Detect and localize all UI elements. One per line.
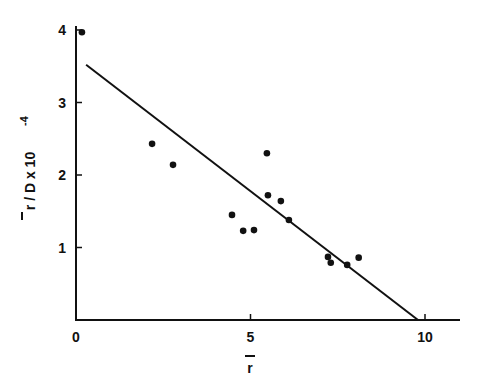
data-points — [79, 29, 362, 268]
y-axis-title-text: r / D x 10 — [22, 152, 38, 211]
fit-line — [86, 65, 418, 320]
x-tick-label: 0 — [72, 329, 80, 345]
x-axis-title-text: r — [247, 360, 253, 376]
data-point — [265, 192, 272, 199]
data-point — [355, 254, 362, 261]
y-tick-label: 3 — [58, 95, 66, 111]
data-point — [286, 217, 293, 224]
data-point — [327, 259, 334, 266]
data-point — [325, 254, 332, 261]
data-point — [79, 29, 86, 36]
x-axis-title: r — [245, 356, 255, 376]
y-tick-label: 4 — [58, 22, 66, 38]
chart-svg: 05101234 r r / D x 10 -4 — [0, 0, 482, 392]
ticks — [76, 30, 425, 320]
tick-labels: 05101234 — [58, 22, 433, 345]
y-tick-label: 2 — [58, 167, 66, 183]
data-point — [344, 262, 351, 269]
data-point — [229, 212, 236, 219]
data-point — [170, 162, 177, 169]
y-axis-exponent: -4 — [18, 115, 30, 126]
data-point — [278, 198, 285, 205]
x-tick-label: 5 — [247, 329, 255, 345]
data-point — [264, 150, 271, 157]
data-point — [149, 141, 156, 148]
axes — [75, 26, 460, 321]
data-point — [240, 228, 247, 235]
x-tick-label: 10 — [417, 329, 433, 345]
y-axis-title: r / D x 10 -4 — [18, 115, 38, 220]
data-point — [251, 227, 258, 234]
regression-line — [86, 65, 418, 320]
y-tick-label: 1 — [58, 240, 66, 256]
